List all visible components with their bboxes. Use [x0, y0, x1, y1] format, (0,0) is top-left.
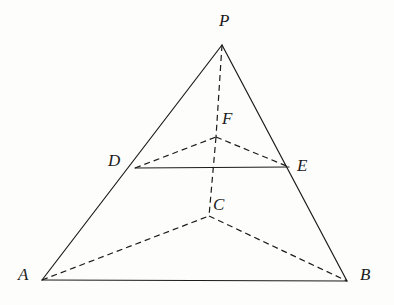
vertex-label-C: C: [213, 196, 224, 213]
edge-CB: [209, 216, 347, 281]
edge-AB: [42, 280, 347, 281]
vertex-label-D: D: [108, 152, 120, 169]
edge-PB: [222, 45, 347, 281]
geometry-canvas: [0, 0, 394, 305]
edge-DF: [135, 137, 216, 168]
vertex-label-E: E: [297, 157, 307, 174]
vertex-label-A: A: [18, 266, 28, 283]
vertex-label-B: B: [360, 266, 370, 283]
edge-PA: [42, 45, 222, 280]
edge-DE: [135, 167, 289, 168]
vertex-label-F: F: [222, 110, 232, 127]
vertex-label-P: P: [219, 12, 229, 29]
geometry-figure: P A B C D E F: [0, 0, 394, 305]
